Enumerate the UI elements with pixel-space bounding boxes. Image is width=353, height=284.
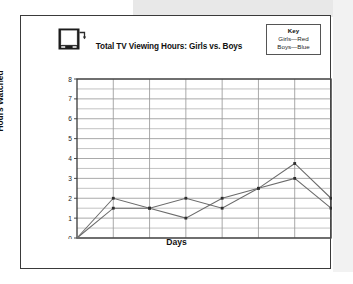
- data-point-girls: [112, 197, 115, 200]
- y-tick-label: 4: [68, 155, 72, 162]
- data-point-boys: [257, 187, 260, 190]
- page-root: Total TV Viewing Hours: Girls vs. Boys K…: [0, 0, 353, 284]
- legend-key-box: Key Girls—Red Boys—Blue: [266, 24, 321, 55]
- page-title: Total TV Viewing Hours: Girls vs. Boys: [59, 42, 279, 51]
- y-tick-label: 5: [68, 135, 72, 142]
- data-point-boys: [293, 177, 296, 180]
- data-point-girls: [330, 197, 332, 200]
- y-tick-label: 2: [68, 195, 72, 202]
- line-chart-svg: 012345678MondayTuesdayWednesdayThursdayF…: [57, 64, 332, 239]
- background-band-right: [333, 0, 353, 272]
- data-point-boys: [221, 197, 224, 200]
- y-tick-label: 8: [68, 76, 72, 83]
- data-point-girls: [293, 162, 296, 165]
- chart-card: Total TV Viewing Hours: Girls vs. Boys K…: [20, 15, 331, 269]
- data-point-boys: [330, 207, 332, 210]
- data-point-boys: [184, 217, 187, 220]
- y-tick-label: 6: [68, 115, 72, 122]
- legend-entry-boys: Boys—Blue: [268, 43, 319, 51]
- y-axis-title: Hours Watched: [0, 46, 5, 156]
- plot-area: 012345678MondayTuesdayWednesdayThursdayF…: [57, 64, 332, 239]
- x-axis-title: Days: [21, 237, 332, 247]
- data-point-girls: [221, 207, 224, 210]
- series-line-girls: [77, 163, 331, 238]
- legend-title: Key: [268, 27, 319, 35]
- y-tick-label: 1: [68, 215, 72, 222]
- data-point-boys: [112, 207, 115, 210]
- y-tick-label: 3: [68, 175, 72, 182]
- y-tick-label: 7: [68, 95, 72, 102]
- data-point-girls: [184, 197, 187, 200]
- legend-entry-girls: Girls—Red: [268, 35, 319, 43]
- data-point-boys: [148, 207, 151, 210]
